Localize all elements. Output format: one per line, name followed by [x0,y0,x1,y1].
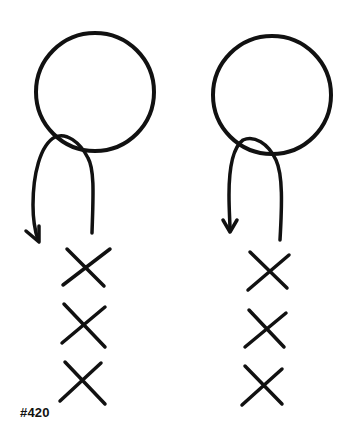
x-mark-icon [63,249,110,286]
figure-number-label: #420 [20,405,50,420]
x-mark-icon [62,304,105,347]
diagram-canvas [0,0,348,436]
left-x-marks [60,249,110,404]
right-circle [213,36,331,154]
right-x-marks [242,252,289,405]
x-mark-icon [245,310,286,347]
left-circle [36,33,154,151]
right-figure [213,36,331,405]
x-mark-icon [248,252,289,290]
x-mark-icon [60,362,105,404]
left-loop-arrow [33,136,93,240]
x-mark-icon [242,366,282,405]
left-figure [26,33,154,404]
right-loop-arrow [229,139,281,240]
